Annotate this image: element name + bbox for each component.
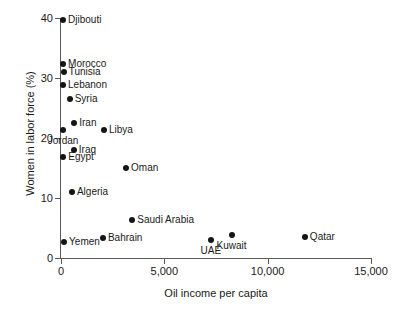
data-point <box>61 239 67 245</box>
data-point <box>101 127 107 133</box>
data-point <box>60 154 66 160</box>
data-point-label: Qatar <box>310 232 335 242</box>
data-point-label: Bahrain <box>108 233 142 243</box>
data-point <box>60 61 66 67</box>
data-point <box>60 17 66 23</box>
data-point <box>129 217 135 223</box>
data-point-label: Kuwait <box>216 241 246 251</box>
data-point-label: Egypt <box>68 152 94 162</box>
data-point-label: Saudi Arabia <box>137 215 194 225</box>
data-point <box>67 96 73 102</box>
x-axis-title: Oil income per capita <box>60 288 372 299</box>
data-point <box>60 82 66 88</box>
data-point-label: Oman <box>131 163 158 173</box>
data-point-label: Algeria <box>77 187 108 197</box>
data-point-label: Djibouti <box>68 15 101 25</box>
data-point-label: Libya <box>109 125 133 135</box>
data-point <box>60 127 66 133</box>
data-point-label: Jordan <box>48 136 79 146</box>
data-point <box>208 237 214 243</box>
scatter-plot-figure: 010203040 05,00010,00015,000 DjiboutiMor… <box>0 0 398 317</box>
data-point-label: Syria <box>75 94 98 104</box>
data-point <box>229 232 235 238</box>
data-point <box>100 235 106 241</box>
data-point <box>71 120 77 126</box>
y-axis-title: Women in labor force (%) <box>25 44 36 224</box>
data-point-label: Lebanon <box>68 80 107 90</box>
data-point-label: Iran <box>79 118 96 128</box>
data-point-label: Tunisia <box>69 67 101 77</box>
data-point <box>123 165 129 171</box>
data-point <box>61 69 67 75</box>
data-point <box>69 189 75 195</box>
data-point-label: Yemen <box>69 237 100 247</box>
data-point <box>302 234 308 240</box>
plot-area: DjiboutiMoroccoTunisiaLebanonSyriaIranJo… <box>0 0 398 317</box>
